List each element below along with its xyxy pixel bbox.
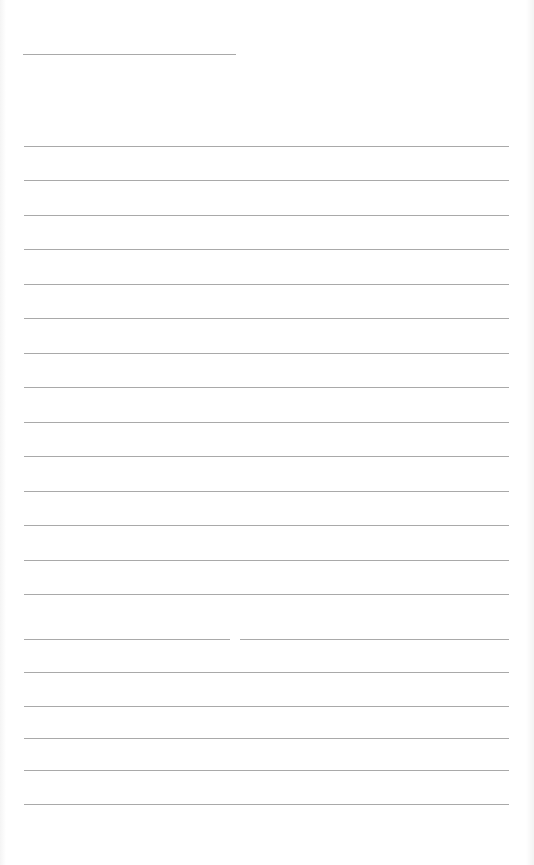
ruled-line	[24, 318, 509, 319]
lined-paper-page	[0, 0, 534, 865]
ruled-line	[24, 491, 509, 492]
ruled-line	[24, 672, 509, 673]
ruled-line	[24, 639, 509, 640]
ruled-line	[24, 560, 509, 561]
ruled-line	[24, 353, 509, 354]
line-gap	[230, 638, 240, 641]
ruled-line	[24, 804, 509, 805]
ruled-line	[24, 525, 509, 526]
ruled-line	[24, 146, 509, 147]
title-line	[23, 54, 236, 55]
ruled-line	[24, 770, 509, 771]
ruled-line	[24, 249, 509, 250]
ruled-line	[24, 422, 509, 423]
ruled-line	[24, 706, 509, 707]
ruled-line	[24, 284, 509, 285]
ruled-line	[24, 387, 509, 388]
ruled-line	[24, 215, 509, 216]
ruled-line	[24, 738, 509, 739]
ruled-line	[24, 180, 509, 181]
ruled-line	[24, 594, 509, 595]
ruled-line	[24, 456, 509, 457]
